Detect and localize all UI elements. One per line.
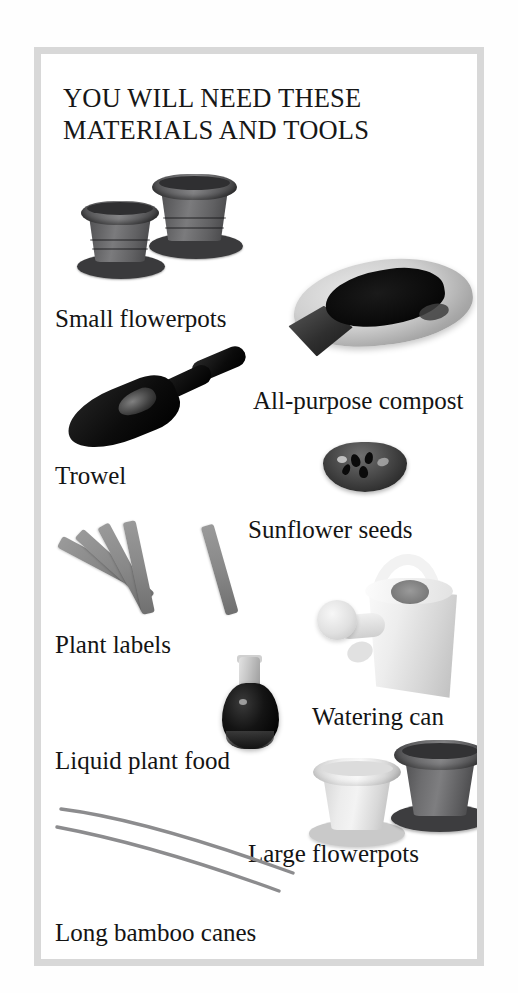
pot-ridge	[163, 217, 226, 219]
pot-rim-opening	[321, 761, 393, 776]
watering-can-fill-hole	[391, 580, 429, 604]
pot-rim-opening	[159, 176, 230, 190]
trowel-image	[63, 349, 253, 449]
caption-trowel: Trowel	[55, 463, 126, 488]
sunflower-seeds-image	[323, 442, 413, 502]
large-flowerpot-dark	[387, 732, 477, 840]
bottle-base	[226, 731, 274, 749]
page-title-line-2: MATERIALS AND TOOLS	[63, 114, 463, 146]
pot-rim-opening	[87, 202, 153, 215]
content-inner: YOU WILL NEED THESE MATERIALS AND TOOLS	[41, 54, 477, 959]
caption-all-purpose-compost: All-purpose compost	[253, 388, 463, 413]
pot-rim-opening	[402, 743, 477, 759]
watering-can-rose	[317, 600, 357, 640]
content-frame: YOU WILL NEED THESE MATERIALS AND TOOLS	[34, 47, 484, 966]
caption-small-flowerpots: Small flowerpots	[55, 306, 227, 331]
page-title-line-1: YOU WILL NEED THESE	[63, 82, 463, 114]
pot-ridge	[90, 239, 150, 241]
caption-sunflower-seeds: Sunflower seeds	[248, 517, 413, 542]
pot-ridge	[165, 227, 224, 229]
caption-watering-can: Watering can	[312, 704, 444, 729]
plant-label-hole	[205, 595, 212, 603]
plant-labels-image	[55, 511, 255, 621]
small-flowerpot-right	[145, 165, 245, 263]
caption-liquid-plant-food: Liquid plant food	[55, 748, 230, 773]
small-flowerpots-image	[67, 165, 247, 280]
long-bamboo-canes-image	[55, 799, 345, 909]
page-root: YOU WILL NEED THESE MATERIALS AND TOOLS	[0, 0, 518, 993]
watering-can-shadow	[344, 638, 375, 666]
bamboo-cane-upper	[61, 809, 293, 873]
bamboo-canes-svg	[55, 799, 345, 909]
all-purpose-compost-image	[287, 254, 477, 369]
watering-can-image	[317, 556, 477, 721]
pot-ridge	[92, 248, 148, 250]
watering-can-body	[363, 588, 457, 700]
caption-plant-labels: Plant labels	[55, 632, 171, 657]
bottle-highlight	[239, 699, 247, 705]
seed-dish-highlight	[337, 456, 347, 463]
bamboo-cane-lower	[57, 827, 279, 891]
caption-long-bamboo-canes: Long bamboo canes	[55, 920, 256, 945]
page-title: YOU WILL NEED THESE MATERIALS AND TOOLS	[63, 82, 463, 147]
